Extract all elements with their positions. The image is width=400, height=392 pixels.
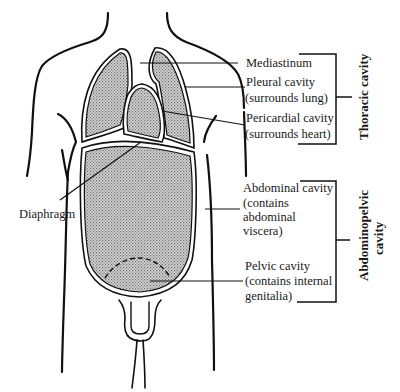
label-mediastinum: Mediastinum xyxy=(246,56,312,70)
label-pericardial-cavity: Pericardial cavity xyxy=(246,111,335,125)
body-cavities-diagram: Mediastinum Pleural cavity (surrounds lu… xyxy=(0,0,400,392)
label-pelvic-desc-1: (contains internal xyxy=(245,274,333,288)
label-pelvic-desc-2: genitalia) xyxy=(245,289,292,303)
group-label-abdominopelvic-2: cavity xyxy=(371,221,386,255)
label-pericardial-desc: (surrounds heart) xyxy=(245,127,331,141)
label-abdominal-desc-3: viscera) xyxy=(243,224,283,238)
label-diaphragm: Diaphragm xyxy=(19,207,76,221)
abdominopelvic-cavity xyxy=(80,142,196,297)
label-pelvic-cavity: Pelvic cavity xyxy=(245,259,311,273)
label-abdominal-cavity: Abdominal cavity xyxy=(243,181,334,195)
genitalia xyxy=(119,300,161,388)
label-pleural-cavity: Pleural cavity xyxy=(246,75,316,89)
label-abdominal-desc-1: (contains xyxy=(243,196,289,210)
label-abdominal-desc-2: abdominal xyxy=(243,210,296,224)
group-label-abdominopelvic-1: Abdominopelvic xyxy=(356,190,371,281)
label-pleural-desc: (surrounds lung) xyxy=(245,91,328,105)
group-label-thoracic: Thoracic cavity xyxy=(356,53,371,140)
